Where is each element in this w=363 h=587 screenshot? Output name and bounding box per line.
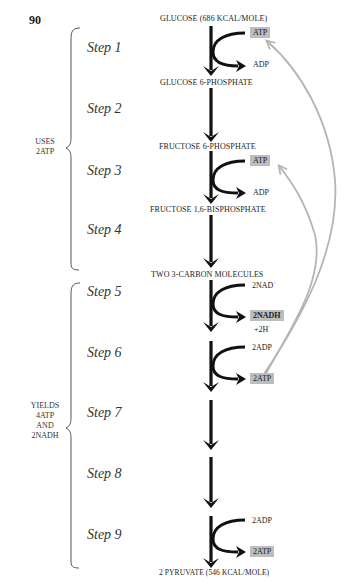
step-8: Step 8: [87, 466, 122, 482]
adp-output-step3: ADP: [253, 188, 269, 197]
step-4: Step 4: [87, 222, 122, 238]
nad-input-step5: 2NAD+: [252, 280, 276, 290]
step-2: Step 2: [87, 101, 122, 117]
step-3: Step 3: [87, 163, 122, 179]
phase-uses-label: USES 2ATP: [25, 137, 65, 157]
adp-input-step6: 2ADP: [252, 343, 272, 352]
step-5: Step 5: [87, 284, 122, 300]
feedback-arrows: [264, 42, 335, 377]
nadh-output-step5: 2NADH: [250, 310, 284, 321]
pathway-arrows: [0, 0, 363, 587]
phase-yields-label: YIELDS 4ATP AND 2NADH: [22, 401, 68, 441]
atp-output-step9: 2ATP: [250, 546, 274, 557]
step-6: Step 6: [87, 345, 122, 361]
molecule-fructose-16-bisphosphate: FRUCTOSE 1,6-BISPHOSPHATE: [150, 205, 266, 214]
hydrogen-output-step5: +2H+: [254, 324, 271, 334]
step-1: Step 1: [87, 40, 122, 56]
atp-output-step6: 2ATP: [250, 373, 274, 384]
adp-input-step9: 2ADP: [252, 516, 272, 525]
step-9: Step 9: [87, 527, 122, 543]
phase-braces: [66, 28, 80, 568]
atp-input-step3: ATP: [250, 155, 270, 166]
side-arrow-heads: [236, 60, 246, 558]
molecule-pyruvate: 2 PYRUVATE (546 kcal/mole): [159, 568, 269, 577]
side-reaction-curves: [213, 33, 245, 552]
atp-input-step1: ATP: [250, 27, 270, 38]
step-7: Step 7: [87, 405, 122, 421]
molecule-two-3-carbon: TWO 3-CARBON MOLECULES: [151, 270, 263, 279]
molecule-glucose-6-phosphate: GLUCOSE 6-PHOSPHATE: [160, 78, 253, 87]
molecule-fructose-6-phosphate: FRUCTOSE 6-PHOSPHATE: [159, 142, 256, 151]
adp-output-step1: ADP: [253, 60, 269, 69]
molecule-glucose: GLUCOSE (686 kcal/mole): [160, 14, 267, 23]
